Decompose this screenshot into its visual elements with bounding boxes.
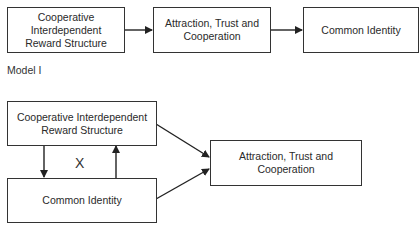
model1-box-attraction-trust-cooperation: Attraction, Trust and Cooperation [153,7,271,53]
arrow-reward-to-attraction [156,124,209,157]
model2-box-attraction-trust-cooperation: Attraction, Trust and Cooperation [210,140,362,186]
model1-box-reward-structure: Cooperative Interdependent Reward Struct… [7,7,125,53]
model2-x-mark: X [75,155,84,171]
model2-box-common-identity: Common Identity [7,178,157,223]
model1-box-common-identity: Common Identity [303,7,419,53]
model1-caption: Model I [7,64,41,76]
arrow-identity-to-attraction [156,169,209,199]
model2-box-reward-structure: Cooperative Interdependent Reward Struct… [7,101,157,146]
